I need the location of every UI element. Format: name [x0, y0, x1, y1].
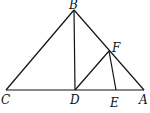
- segment-bd: [74, 10, 75, 90]
- segment-ba: [74, 10, 144, 90]
- label-f: F: [111, 41, 121, 55]
- label-c: C: [1, 93, 10, 107]
- segment-df: [75, 51, 109, 90]
- label-a: A: [138, 93, 148, 107]
- label-d: D: [69, 93, 80, 107]
- geometry-figure: B C D E A F: [0, 0, 150, 113]
- label-e: E: [109, 96, 119, 110]
- segment-bc: [6, 10, 74, 90]
- label-b: B: [68, 0, 78, 12]
